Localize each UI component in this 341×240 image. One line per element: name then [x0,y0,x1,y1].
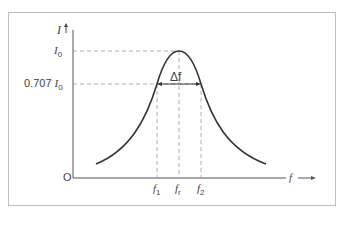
origin-label: O [63,172,72,183]
y-mark-subscript: 0 [58,50,62,59]
x-mark-f2: f2 [197,183,205,197]
y-axis-label: I [57,24,61,36]
x-arrowhead-icon [311,176,316,180]
y-mark-i0: I0 [54,45,62,59]
bandwidth-label: Δf [170,71,181,83]
resonance-curve [96,51,266,164]
y-mark-prefix: 0.707 [24,77,55,89]
x-mark-subscript: 1 [156,188,160,197]
x-mark-subscript: r [178,188,181,197]
x-mark-subscript: 2 [200,188,204,197]
x-mark-fr: fr [175,183,181,197]
y-mark-0707-i0: 0.707 I0 [24,78,63,92]
x-axis-label: f [289,172,292,183]
guide-lines [73,51,201,178]
y-arrowhead-icon [64,23,68,27]
x-mark-f1: f1 [153,183,161,197]
y-mark-subscript: 0 [58,83,62,92]
